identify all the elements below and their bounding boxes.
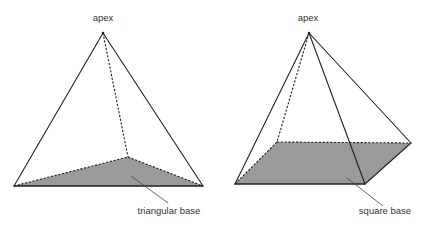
apex-point [102,32,105,35]
square-pyramid: apex square base [235,12,411,216]
square-base-face [235,142,411,184]
triangular-pyramid: apex triangular base [14,12,203,216]
apex-label: apex [93,12,114,23]
triangular-base-label: triangular base [138,205,201,216]
lateral-edge-left [14,33,103,186]
square-base-label: square base [359,205,411,216]
pyramids-diagram: apex triangular base apex square base [0,0,421,235]
apex-label: apex [298,12,319,23]
lateral-edge-right [309,33,411,143]
triangular-base-face [14,157,203,186]
apex-point [308,32,311,35]
